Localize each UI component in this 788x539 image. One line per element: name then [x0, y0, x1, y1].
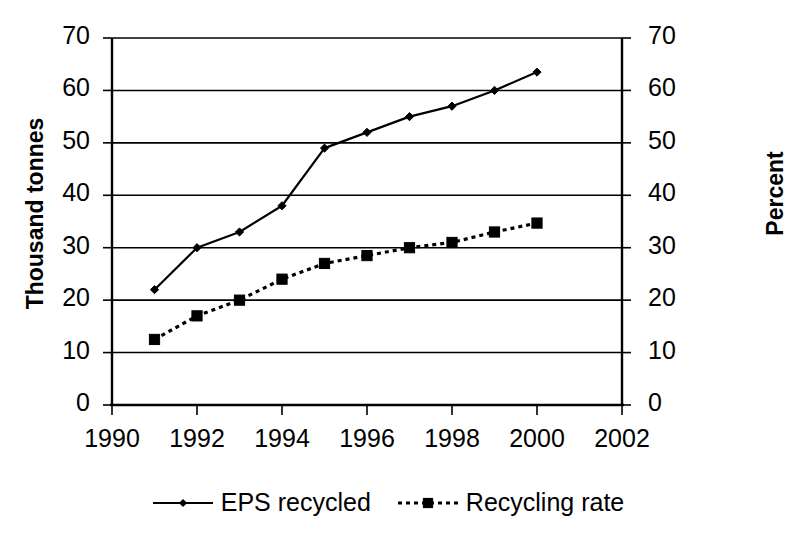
chart-legend: EPS recycledRecycling rate [0, 488, 776, 517]
series-line-1 [155, 223, 538, 339]
data-point-marker-diamond [533, 68, 541, 76]
legend-entry: Recycling rate [397, 488, 624, 517]
data-point-marker-square [362, 250, 372, 260]
series-line-0 [155, 72, 538, 290]
data-point-marker-square [319, 258, 329, 268]
legend-label: EPS recycled [221, 488, 371, 517]
data-point-marker-diamond [490, 86, 498, 94]
data-point-marker-square [489, 227, 499, 237]
legend-diamond-marker [152, 493, 214, 513]
data-point-marker-square [192, 311, 202, 321]
legend-label: Recycling rate [466, 488, 624, 517]
legend-square-marker [397, 493, 459, 513]
data-point-marker-square [277, 274, 287, 284]
data-point-marker-square [447, 237, 457, 247]
legend-entry: EPS recycled [152, 488, 371, 517]
data-point-marker-square [149, 334, 159, 344]
data-point-marker-diamond [405, 113, 413, 121]
data-point-marker-square [532, 218, 542, 228]
data-point-marker-square [404, 243, 414, 253]
data-point-marker-diamond [448, 102, 456, 110]
data-point-marker-diamond [363, 128, 371, 136]
data-point-marker-square [234, 295, 244, 305]
